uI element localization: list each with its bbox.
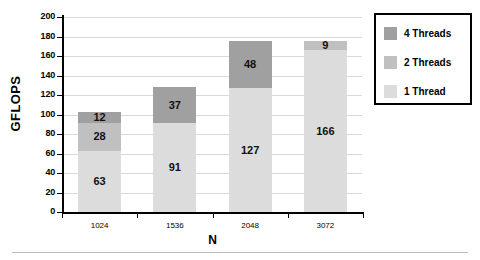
y-tick-mark xyxy=(57,56,63,57)
bar-segment[interactable]: 63 xyxy=(78,151,121,212)
bar-segment[interactable]: 28 xyxy=(78,123,121,150)
y-tick-label: 160 xyxy=(20,51,55,60)
y-tick-label: 140 xyxy=(20,71,55,80)
bars-layer: 6328129137127481669 xyxy=(62,17,363,212)
bar-segment[interactable]: 91 xyxy=(153,123,196,212)
y-tick-mark xyxy=(57,76,63,77)
bar-value-label: 91 xyxy=(169,162,181,173)
y-tick-mark xyxy=(57,115,63,116)
legend-item[interactable]: 1 Thread xyxy=(384,85,446,98)
legend-item[interactable]: 2 Threads xyxy=(384,56,451,69)
y-tick-label: 40 xyxy=(20,168,55,177)
bar-segment[interactable]: 166 xyxy=(304,50,347,212)
y-tick-mark xyxy=(57,37,63,38)
bar-stack[interactable]: 1669 xyxy=(304,17,347,212)
legend-label: 1 Thread xyxy=(404,86,446,97)
bar-value-label: 9 xyxy=(322,40,328,51)
bar-stack[interactable]: 632812 xyxy=(78,17,121,212)
bar-value-label: 12 xyxy=(94,112,106,123)
y-tick-mark xyxy=(57,95,63,96)
x-tick-mark xyxy=(137,212,138,218)
bar-value-label: 127 xyxy=(241,145,259,156)
bar-segment[interactable]: 12 xyxy=(78,112,121,124)
legend-swatch-icon xyxy=(384,85,397,98)
legend: 4 Threads2 Threads1 Thread xyxy=(374,13,472,105)
y-tick-mark xyxy=(57,154,63,155)
bar-stack[interactable]: 12748 xyxy=(229,17,272,212)
x-tick-mark xyxy=(363,212,364,218)
footer-divider xyxy=(12,252,468,253)
legend-swatch-icon xyxy=(384,56,397,69)
bar-stack[interactable]: 9137 xyxy=(153,17,196,212)
y-tick-mark xyxy=(57,173,63,174)
x-tick-mark xyxy=(213,212,214,218)
bar-value-label: 166 xyxy=(316,126,334,137)
legend-item[interactable]: 4 Threads xyxy=(384,27,451,40)
y-tick-label: 180 xyxy=(20,32,55,41)
x-tick-label: 1024 xyxy=(62,221,137,230)
bar-segment[interactable]: 127 xyxy=(229,88,272,212)
bar-segment[interactable]: 9 xyxy=(304,41,347,50)
bar-segment[interactable]: 48 xyxy=(229,41,272,88)
y-tick-mark xyxy=(57,134,63,135)
y-tick-label: 80 xyxy=(20,129,55,138)
y-tick-label: 120 xyxy=(20,90,55,99)
chart-figure: 6328129137127481669 02040608010012014016… xyxy=(0,0,480,260)
y-tick-mark xyxy=(57,193,63,194)
legend-swatch-icon xyxy=(384,27,397,40)
y-axis-title: GFLOPS xyxy=(8,49,23,159)
y-tick-label: 60 xyxy=(20,149,55,158)
x-tick-label: 2048 xyxy=(213,221,288,230)
x-tick-mark xyxy=(288,212,289,218)
x-tick-label: 3072 xyxy=(288,221,363,230)
bar-segment[interactable]: 37 xyxy=(153,87,196,123)
x-tick-mark xyxy=(62,212,63,218)
y-tick-label: 200 xyxy=(20,12,55,21)
bar-value-label: 48 xyxy=(244,59,256,70)
y-tick-label: 20 xyxy=(20,188,55,197)
y-tick-mark xyxy=(57,17,63,18)
legend-label: 4 Threads xyxy=(404,28,451,39)
y-tick-label: 100 xyxy=(20,110,55,119)
legend-label: 2 Threads xyxy=(404,57,451,68)
y-tick-label: 0 xyxy=(20,207,55,216)
x-axis-title: N xyxy=(62,233,363,247)
bar-value-label: 37 xyxy=(169,100,181,111)
bar-value-label: 63 xyxy=(94,176,106,187)
x-tick-label: 1536 xyxy=(137,221,212,230)
bar-value-label: 28 xyxy=(94,131,106,142)
